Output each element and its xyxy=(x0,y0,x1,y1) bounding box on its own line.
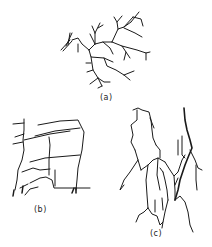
panel-b-label: (b) xyxy=(34,205,47,214)
panel-c-label: (c) xyxy=(150,229,162,238)
crack-drawings xyxy=(0,0,212,247)
panel-b-drawing xyxy=(13,119,90,196)
panel-c-drawing xyxy=(120,108,202,232)
panel-a-label: (a) xyxy=(100,93,113,102)
figure: (a) (b) (c) xyxy=(0,0,212,247)
panel-a-drawing xyxy=(61,12,150,88)
